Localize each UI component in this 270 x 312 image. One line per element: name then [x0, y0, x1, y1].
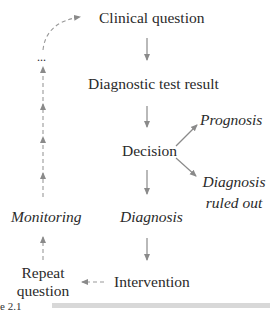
arrow-decision-to-ruled-out: [176, 158, 196, 176]
node-monitoring: Monitoring: [11, 208, 82, 226]
node-diagnosis-ruled-out: Diagnosis ruled out: [198, 173, 270, 212]
node-ellipsis: ...: [37, 48, 46, 66]
node-decision: Decision: [122, 142, 177, 160]
arrow-decision-to-prognosis: [176, 125, 197, 146]
caption-rule: [52, 303, 270, 308]
node-intervention: Intervention: [114, 273, 190, 291]
node-repeat-question-line1: Repeat: [14, 264, 72, 282]
node-repeat-question: Repeat question: [14, 264, 72, 300]
node-repeat-question-line2: question: [14, 282, 72, 300]
node-diagnosis-ruled-out-line1: Diagnosis: [198, 173, 270, 191]
node-prognosis: Prognosis: [200, 111, 262, 129]
node-clinical-question: Clinical question: [99, 9, 204, 27]
node-diagnostic-test-result: Diagnostic test result: [88, 75, 219, 93]
node-diagnosis: Diagnosis: [120, 208, 183, 226]
arrow-ellipsis-to-question: [43, 17, 80, 50]
node-diagnosis-ruled-out-line2: ruled out: [198, 194, 270, 212]
caption-fragment: e 2.1: [0, 300, 21, 312]
